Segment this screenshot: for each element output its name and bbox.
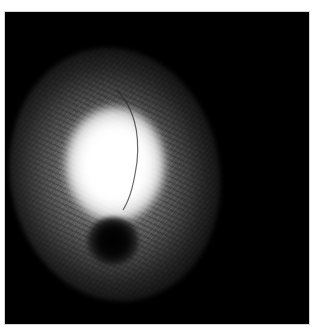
image-frame <box>5 12 309 324</box>
vessel-line <box>5 12 309 324</box>
